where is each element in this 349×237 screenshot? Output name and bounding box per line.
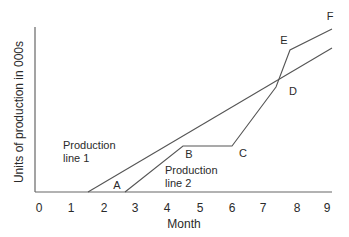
line-2-label-top: Production <box>165 164 218 176</box>
point-label-c: C <box>239 147 247 159</box>
y-axis-label: Units of production in 000s <box>12 41 26 183</box>
point-label-e: E <box>280 34 287 46</box>
line-2-label: Production line 2 <box>165 164 218 189</box>
x-tick-9: 9 <box>324 201 331 215</box>
point-label-a: A <box>113 179 121 191</box>
line-1-label-bottom: line 1 <box>63 152 89 164</box>
point-label-f: F <box>327 10 334 22</box>
x-tick-4: 4 <box>164 201 171 215</box>
line-2-label-bottom: line 2 <box>165 177 191 189</box>
x-axis-label: Month <box>167 217 200 231</box>
production-chart: Units of production in 000s 0 1 2 3 4 5 … <box>0 0 349 237</box>
x-tick-0: 0 <box>36 201 43 215</box>
production-line-2 <box>125 29 332 192</box>
point-label-d: D <box>289 85 297 97</box>
x-tick-labels: 0 1 2 3 4 5 6 7 8 9 <box>36 201 331 215</box>
point-label-b: B <box>185 148 192 160</box>
x-tick-8: 8 <box>294 201 301 215</box>
x-tick-1: 1 <box>68 201 75 215</box>
x-tick-5: 5 <box>197 201 204 215</box>
x-tick-3: 3 <box>132 201 139 215</box>
line-1-label: Production line 1 <box>63 139 116 164</box>
line-1-label-top: Production <box>63 139 116 151</box>
x-tick-6: 6 <box>229 201 236 215</box>
x-tick-7: 7 <box>260 201 267 215</box>
point-labels: A B C D E F <box>113 10 333 191</box>
x-tick-2: 2 <box>101 201 108 215</box>
